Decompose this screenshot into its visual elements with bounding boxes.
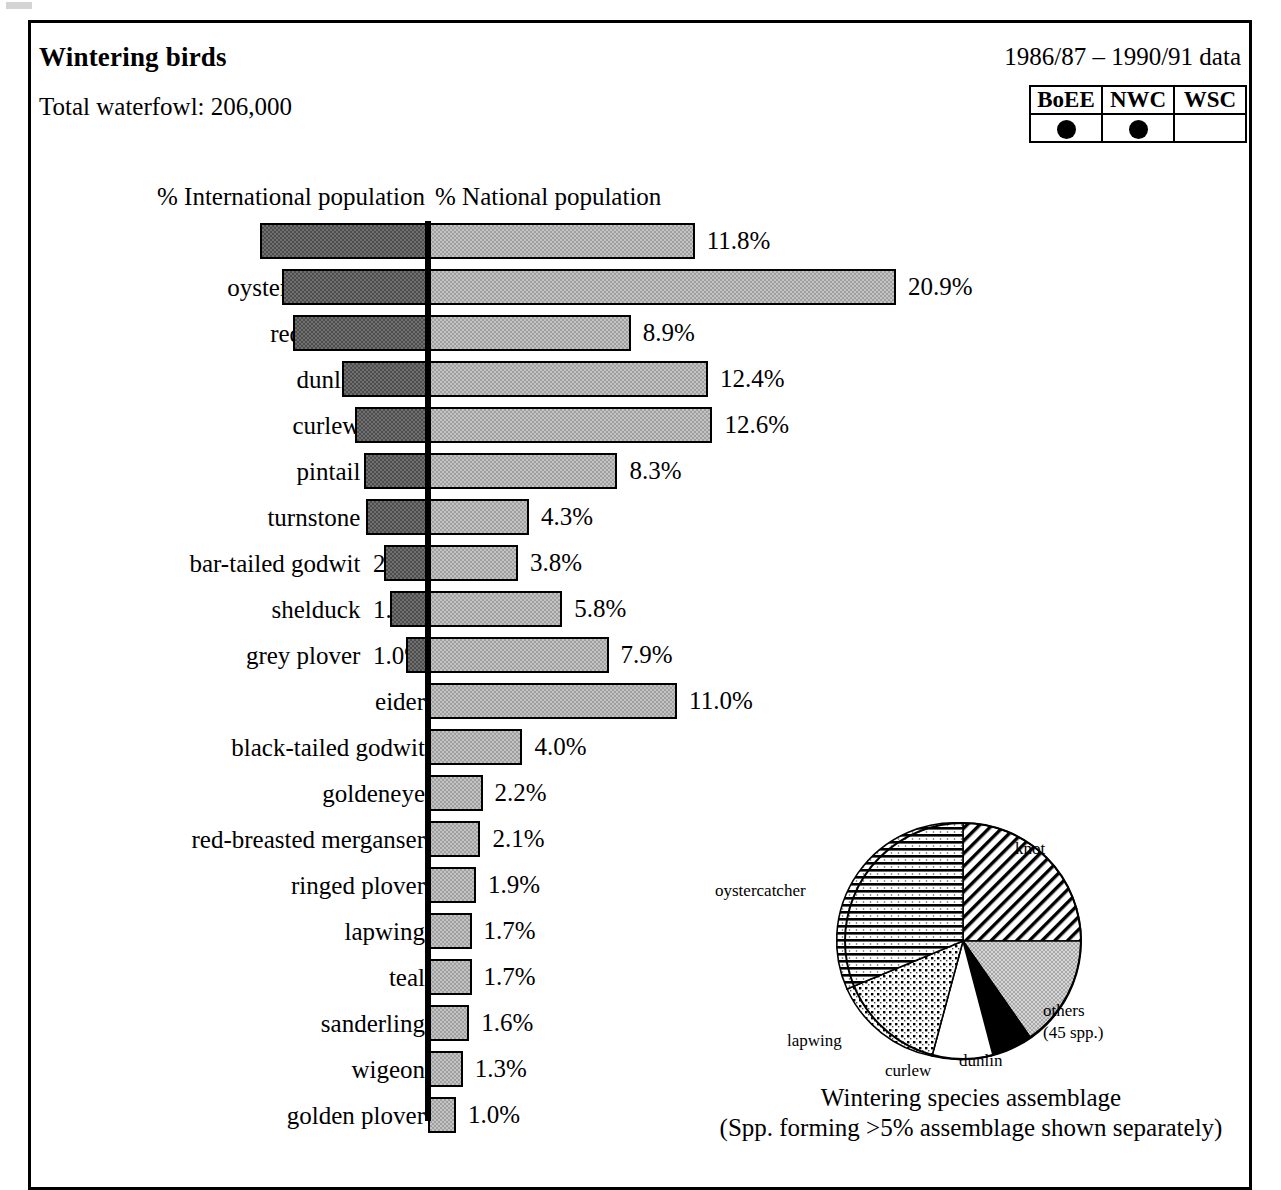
- species-label: grey plover 1.0%: [246, 637, 425, 675]
- pie-label-dunlin: dunlin: [959, 1051, 1002, 1071]
- bar-national: [428, 683, 677, 719]
- species-label: red-breasted merganser: [192, 821, 425, 859]
- species-label: teal: [389, 959, 425, 997]
- bar-row: dunlin 3.9%12.4%: [31, 361, 1249, 407]
- bar-national: [428, 729, 522, 765]
- value-label-national: 5.8%: [574, 591, 626, 627]
- value-label-national: 11.8%: [707, 223, 771, 259]
- value-label-national: 4.0%: [534, 729, 586, 765]
- bar-national: [428, 637, 609, 673]
- bar-national: [428, 315, 631, 351]
- bar-row: eider11.0%: [31, 683, 1249, 729]
- bar-international: [364, 453, 434, 489]
- bar-international: [260, 223, 434, 259]
- bar-international: [355, 407, 434, 443]
- survey-column-wsc: WSC: [1174, 86, 1246, 114]
- total-waterfowl-text: Total waterfowl: 206,000: [39, 93, 292, 121]
- bar-national: [428, 407, 712, 443]
- bar-international: [293, 315, 434, 351]
- page-title: Wintering birds: [39, 42, 227, 73]
- survey-legend-marks-row: [1030, 114, 1246, 142]
- bar-national: [428, 959, 472, 995]
- figure-panel: Wintering birds Total waterfowl: 206,000…: [28, 20, 1252, 1190]
- bar-national: [428, 269, 896, 305]
- bar-international: [342, 361, 434, 397]
- bar-row: redshank 6.1%8.9%: [31, 315, 1249, 361]
- bar-row: bar-tailed godwit 2.0%3.8%: [31, 545, 1249, 591]
- pie-caption: Wintering species assemblage (Spp. formi…: [693, 1083, 1249, 1143]
- value-label-national: 1.7%: [484, 959, 536, 995]
- value-label-national: 2.1%: [492, 821, 544, 857]
- pie-caption-line1: Wintering species assemblage: [693, 1083, 1249, 1113]
- bar-national: [428, 1051, 463, 1087]
- pie-caption-line2: (Spp. forming >5% assemblage shown separ…: [693, 1113, 1249, 1143]
- species-label: ringed plover: [291, 867, 425, 905]
- bar-row: oystercatcher 6.6%20.9%: [31, 269, 1249, 315]
- bar-national: [428, 545, 518, 581]
- pie-label-curlew: curlew: [885, 1061, 931, 1081]
- bar-national: [428, 223, 695, 259]
- value-label-national: 1.9%: [488, 867, 540, 903]
- bar-national: [428, 361, 708, 397]
- value-label-national: 12.4%: [720, 361, 785, 397]
- survey-mark-nwc: [1102, 114, 1174, 142]
- filled-circle-icon: [1129, 120, 1148, 139]
- bar-national: [428, 453, 617, 489]
- value-label-national: 8.9%: [643, 315, 695, 351]
- pie-label-lapwing: lapwing: [787, 1031, 842, 1051]
- pie-label-others-line2: (45 spp.): [1043, 1023, 1103, 1043]
- survey-legend-table: BoEE NWC WSC: [1029, 85, 1247, 143]
- value-label-national: 7.9%: [621, 637, 673, 673]
- value-label-national: 20.9%: [908, 269, 973, 305]
- scan-artifact: [6, 2, 32, 9]
- value-label-national: 1.3%: [475, 1051, 527, 1087]
- species-label: lapwing: [344, 913, 425, 951]
- axis-label-national: % National population: [435, 183, 661, 211]
- pie-label-knot: knot: [1015, 839, 1045, 859]
- value-label-national: 1.6%: [481, 1005, 533, 1041]
- bar-row: turnstone 2.8%4.3%: [31, 499, 1249, 545]
- bar-national: [428, 591, 562, 627]
- species-label: sanderling: [321, 1005, 425, 1043]
- survey-column-boee: BoEE: [1030, 86, 1102, 114]
- bar-row: black-tailed godwit4.0%: [31, 729, 1249, 775]
- value-label-national: 3.8%: [530, 545, 582, 581]
- bar-row: curlew 3.3%12.6%: [31, 407, 1249, 453]
- species-label: golden plover: [287, 1097, 425, 1135]
- value-label-national: 2.2%: [495, 775, 547, 811]
- bar-national: [428, 1097, 456, 1133]
- pie-label-oystercatcher: oystercatcher: [715, 881, 806, 901]
- value-label-national: 4.3%: [541, 499, 593, 535]
- bar-national: [428, 499, 529, 535]
- filled-circle-icon: [1057, 120, 1076, 139]
- bar-row: knot 7.6%11.8%: [31, 223, 1249, 269]
- survey-column-nwc: NWC: [1102, 86, 1174, 114]
- species-assemblage-pie: knot others (45 spp.) dunlin curlew lapw…: [693, 803, 1249, 1173]
- value-label-national: 8.3%: [629, 453, 681, 489]
- bar-national: [428, 913, 472, 949]
- value-label-national: 1.7%: [484, 913, 536, 949]
- pie-label-others-line1: others: [1043, 1001, 1085, 1021]
- survey-mark-wsc: [1174, 114, 1246, 142]
- axis-label-international: % International population: [157, 183, 425, 211]
- survey-legend-header-row: BoEE NWC WSC: [1030, 86, 1246, 114]
- bar-national: [428, 775, 483, 811]
- bar-national: [428, 821, 480, 857]
- bar-international: [366, 499, 434, 535]
- data-period-label: 1986/87 – 1990/91 data: [1004, 43, 1241, 71]
- value-label-national: 1.0%: [468, 1097, 520, 1133]
- bar-national: [428, 867, 476, 903]
- value-label-national: 12.6%: [724, 407, 789, 443]
- bar-row: shelduck 1.7%5.8%: [31, 591, 1249, 637]
- bar-row: grey plover 1.0%7.9%: [31, 637, 1249, 683]
- species-label: black-tailed godwit: [231, 729, 425, 767]
- bar-row: pintail 2.9%8.3%: [31, 453, 1249, 499]
- center-axis-line: [425, 221, 431, 1121]
- species-label: wigeon: [351, 1051, 425, 1089]
- bar-national: [428, 1005, 469, 1041]
- bar-international: [282, 269, 434, 305]
- species-label: goldeneye: [322, 775, 425, 813]
- value-label-national: 11.0%: [689, 683, 753, 719]
- species-label: eider: [375, 683, 425, 721]
- survey-mark-boee: [1030, 114, 1102, 142]
